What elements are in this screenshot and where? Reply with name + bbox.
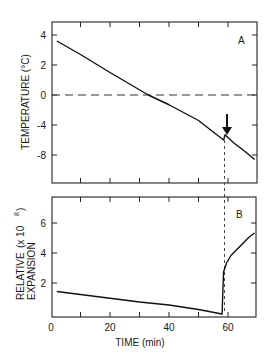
svg-text:0: 0 xyxy=(48,322,54,333)
svg-text:EXPANSION: EXPANSION xyxy=(26,242,37,300)
svg-text:8: 8 xyxy=(13,212,20,216)
svg-text:4: 4 xyxy=(40,30,46,41)
panel-b-frame xyxy=(52,197,256,317)
panel-b: 6420204060 B RELATIVE EXPANSION (x 10 8 … xyxy=(13,197,256,348)
x-axis-label: TIME (min) xyxy=(115,337,164,348)
svg-text:60: 60 xyxy=(222,322,234,333)
panel-b-label: B xyxy=(236,209,243,220)
svg-text:): ) xyxy=(15,208,26,211)
svg-text:2: 2 xyxy=(40,60,46,71)
panel-a-frame xyxy=(52,22,257,183)
svg-text:40: 40 xyxy=(163,322,175,333)
panel-b-ticks: 6420204060 xyxy=(40,197,256,333)
svg-text:4: 4 xyxy=(40,248,46,259)
panel-a-label: A xyxy=(238,35,245,46)
arrow-icon xyxy=(222,114,232,135)
svg-text:-8: -8 xyxy=(37,150,46,161)
svg-text:-4: -4 xyxy=(37,120,46,131)
svg-text:6: 6 xyxy=(40,218,46,229)
panel-a: 420-4-8 A TEMPERATURE (°C) xyxy=(20,22,257,183)
y-axis-label-expansion: RELATIVE EXPANSION (x 10 8 ) xyxy=(13,208,37,300)
svg-text:2: 2 xyxy=(40,278,46,289)
figure: 420-4-8 A TEMPERATURE (°C) 6420204060 B … xyxy=(0,0,273,363)
svg-text:20: 20 xyxy=(104,322,116,333)
svg-text:RELATIVE: RELATIVE xyxy=(15,252,26,300)
svg-text:(x 10: (x 10 xyxy=(15,225,26,248)
svg-text:0: 0 xyxy=(40,90,46,101)
y-axis-label-temperature: TEMPERATURE (°C) xyxy=(20,54,31,149)
